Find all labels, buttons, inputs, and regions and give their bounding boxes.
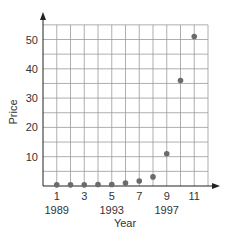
data-point — [136, 178, 142, 184]
y-tick-label: 10 — [26, 151, 38, 163]
y-tick-label: 30 — [26, 92, 38, 104]
data-point — [123, 180, 129, 186]
x-tick-label: 5 — [109, 190, 115, 202]
x-tick-label: 9 — [164, 190, 170, 202]
y-tick-label: 40 — [26, 63, 38, 75]
data-point — [109, 182, 115, 188]
data-point — [81, 182, 87, 188]
y-tick-label: 20 — [26, 121, 38, 133]
data-point — [191, 34, 197, 40]
y-tick-labels: 1020304050 — [26, 34, 38, 163]
x-year-label: 1989 — [45, 204, 69, 216]
y-axis-label: Price — [7, 99, 19, 124]
data-point — [95, 182, 101, 188]
data-point — [150, 174, 156, 180]
x-tick-label: 1 — [54, 190, 60, 202]
y-axis-arrow-icon — [40, 12, 46, 20]
x-tick-label: 3 — [81, 190, 87, 202]
x-tick-labels: 1357911 — [54, 190, 200, 202]
y-tick-label: 50 — [26, 34, 38, 46]
grid-lines — [43, 25, 208, 186]
x-tick-label: 11 — [189, 190, 200, 202]
x-axis-arrow-icon — [212, 183, 220, 189]
x-axis-label: Year — [114, 217, 137, 229]
data-point — [178, 78, 184, 84]
x-year-label: 1993 — [100, 204, 124, 216]
x-tick-label: 7 — [136, 190, 142, 202]
x-year-label: 1997 — [155, 204, 179, 216]
scatter-chart: 1020304050 1357911 198919931997 Price Ye… — [0, 0, 229, 237]
x-year-labels: 198919931997 — [45, 204, 179, 216]
data-point — [68, 182, 74, 188]
data-point — [54, 182, 60, 188]
data-point — [164, 151, 170, 157]
